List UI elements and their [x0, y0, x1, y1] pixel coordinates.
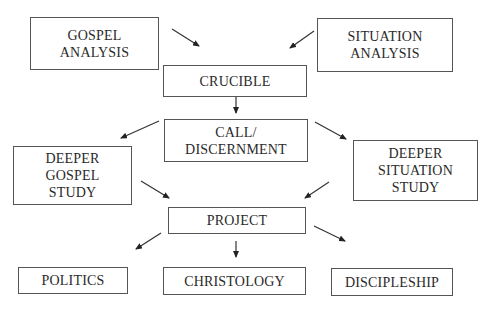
node-label-line: ANALYSIS — [60, 44, 129, 61]
node-label-line: CHRISTOLOGY — [184, 273, 285, 290]
node-label-line: DISCERNMENT — [185, 141, 287, 158]
node-discipleship: DISCIPLESHIP — [331, 268, 453, 296]
node-label-line: ANALYSIS — [350, 45, 419, 62]
arrow-deeper-situation-study-to-project — [305, 182, 329, 198]
arrow-project-to-politics — [136, 233, 161, 249]
node-label-line: CALL/ — [215, 124, 256, 141]
node-gospel-analysis: GOSPEL ANALYSIS — [30, 17, 159, 70]
node-label-line: CRUCIBLE — [200, 73, 271, 90]
node-label-line: STUDY — [392, 179, 440, 196]
node-project: PROJECT — [168, 207, 306, 234]
arrow-situation-analysis-to-crucible — [290, 31, 314, 48]
node-deeper-situation-study: DEEPER SITUATION STUDY — [353, 140, 478, 201]
node-deeper-gospel-study: DEEPER GOSPEL STUDY — [13, 146, 132, 205]
node-politics: POLITICS — [18, 267, 128, 294]
node-christology: CHRISTOLOGY — [163, 267, 306, 295]
node-label-line: GOSPEL — [67, 27, 121, 44]
arrow-call-to-deeper-situation-study — [315, 122, 346, 139]
node-call-discernment: CALL/ DISCERNMENT — [164, 119, 308, 162]
node-label-line: GOSPEL — [45, 167, 99, 184]
node-label-line: SITUATION — [348, 28, 423, 45]
node-label-line: DEEPER — [45, 150, 99, 167]
arrow-deeper-gospel-study-to-project — [141, 181, 169, 198]
node-label-line: STUDY — [49, 184, 97, 201]
node-label-line: DEEPER — [388, 145, 442, 162]
arrow-project-to-discipleship — [314, 226, 345, 241]
node-label-line: PROJECT — [207, 212, 268, 229]
node-label-line: SITUATION — [378, 162, 453, 179]
node-situation-analysis: SITUATION ANALYSIS — [317, 18, 453, 72]
node-label-line: DISCIPLESHIP — [345, 274, 439, 291]
node-label-line: POLITICS — [41, 272, 104, 289]
node-crucible: CRUCIBLE — [163, 65, 307, 97]
arrow-gospel-analysis-to-crucible — [172, 29, 199, 46]
arrow-call-to-deeper-gospel-study — [121, 121, 159, 138]
